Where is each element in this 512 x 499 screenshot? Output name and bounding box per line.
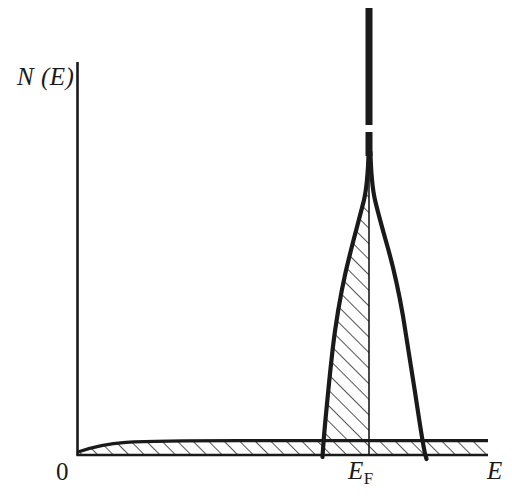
offscale-spike-lower	[366, 132, 373, 156]
hatched-occupied-area	[323, 150, 369, 455]
y-axis-label: N (E)	[17, 64, 74, 89]
axes	[77, 62, 489, 456]
offscale-spike-upper	[366, 8, 373, 125]
density-of-states-figure: N (E) E EF 0	[0, 0, 512, 499]
x-axis-label: E	[487, 458, 502, 483]
fermi-base: E	[348, 457, 363, 484]
origin-tick-label: 0	[56, 459, 69, 484]
fermi-subscript: F	[364, 469, 373, 488]
fermi-energy-tick-label: EF	[348, 458, 373, 487]
plot-canvas	[0, 0, 512, 499]
peak-right-branch	[370, 152, 426, 459]
